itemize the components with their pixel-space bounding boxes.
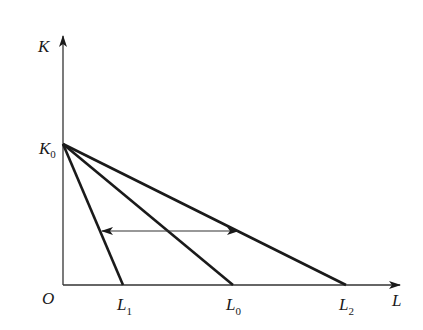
l0-label: L0 xyxy=(225,295,241,317)
isocost-diagram: K L O K0 L1 L0 L2 xyxy=(0,0,423,330)
origin-label: O xyxy=(42,289,54,308)
l1-label: L1 xyxy=(116,295,132,317)
line-k0-l1 xyxy=(63,144,123,285)
y-axis-label: K xyxy=(37,37,51,56)
line-k0-l0 xyxy=(63,144,233,285)
diagram-canvas: K L O K0 L1 L0 L2 xyxy=(0,0,423,330)
l2-label: L2 xyxy=(338,295,354,317)
k0-label: K0 xyxy=(38,139,56,160)
line-k0-l2 xyxy=(63,144,346,285)
x-axis-label: L xyxy=(391,291,401,310)
